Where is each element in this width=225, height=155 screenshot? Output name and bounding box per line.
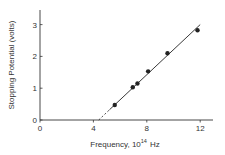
y-tick-label: 2: [33, 52, 38, 61]
x-axis-title: Frequency, 1014Hz: [90, 138, 159, 149]
x-tick-label: 8: [145, 124, 150, 133]
fit-line-extrapolated: [99, 110, 110, 120]
data-point: [131, 85, 135, 89]
y-tick-label: 3: [33, 21, 38, 30]
y-ticks: 0123: [33, 21, 43, 125]
x-axis-title-unit: Hz: [150, 140, 160, 149]
data-point: [165, 51, 169, 55]
data-point: [113, 103, 117, 107]
x-ticks: 04812: [38, 120, 205, 133]
x-tick-label: 12: [196, 124, 205, 133]
x-tick-label: 4: [91, 124, 96, 133]
data-points: [113, 28, 200, 107]
y-tick-label: 1: [33, 84, 38, 93]
data-point: [135, 81, 139, 85]
y-tick-label: 0: [33, 116, 38, 125]
y-axis-title: Stopping Potential (volts): [7, 20, 16, 109]
data-point: [195, 28, 199, 32]
x-tick-label: 0: [38, 124, 43, 133]
photoelectric-chart: 04812 0123 Stopping Potential (volts) Fr…: [0, 0, 225, 155]
x-axis-title-main: Frequency, 10: [90, 140, 141, 149]
data-point: [146, 69, 150, 73]
fit-line-solid: [109, 25, 200, 110]
x-axis-title-exponent: 14: [141, 138, 147, 144]
axes: [40, 10, 213, 120]
